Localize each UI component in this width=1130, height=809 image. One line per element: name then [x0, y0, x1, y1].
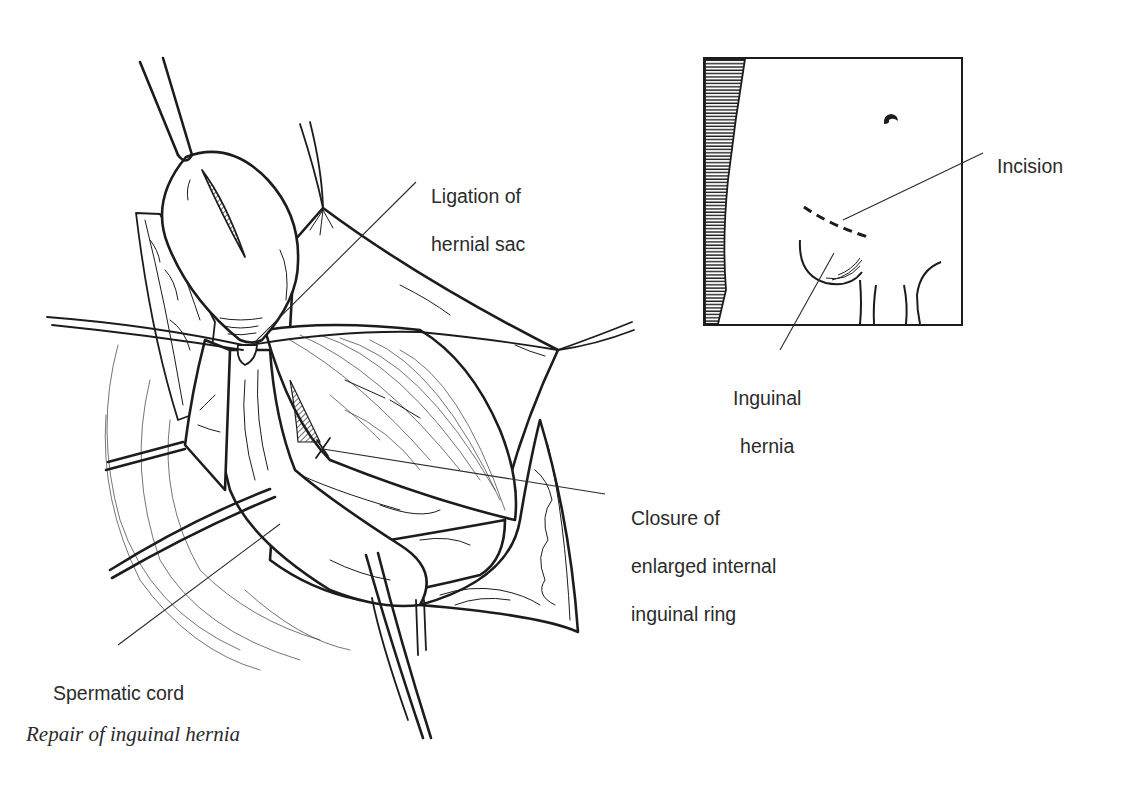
figure-caption: Repair of inguinal hernia	[26, 722, 240, 747]
label-closure: Closure of enlarged internal inguinal ri…	[631, 482, 776, 650]
label-cord-line1: Spermatic cord	[53, 681, 184, 705]
label-cord: Spermatic cord	[53, 657, 184, 729]
label-ligation: Ligation of hernial sac	[431, 160, 525, 280]
label-hernia: Inguinal hernia	[733, 362, 801, 482]
label-ligation-line2: hernial sac	[431, 232, 525, 256]
label-hernia-line2: hernia	[733, 434, 801, 458]
label-closure-line2: enlarged internal	[631, 554, 776, 578]
label-hernia-line1: Inguinal	[733, 386, 801, 410]
label-incision: Incision	[997, 130, 1063, 202]
label-closure-line3: inguinal ring	[631, 602, 776, 626]
label-incision-line1: Incision	[997, 154, 1063, 178]
figure-canvas: Ligation of hernial sac Closure of enlar…	[0, 0, 1130, 809]
label-ligation-line1: Ligation of	[431, 184, 525, 208]
label-closure-line1: Closure of	[631, 506, 776, 530]
